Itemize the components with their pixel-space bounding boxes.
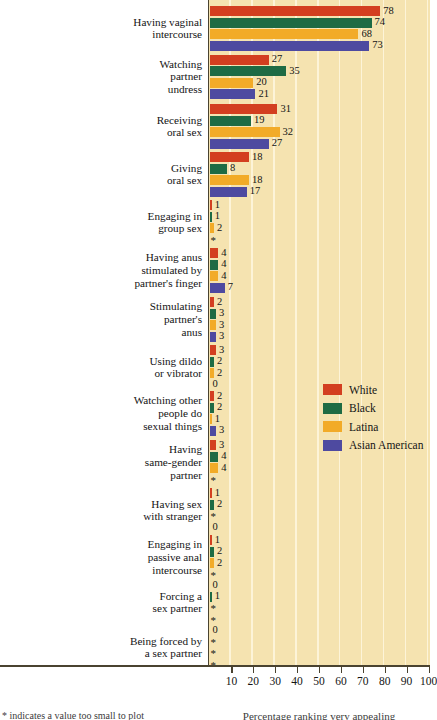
bar-value-label: 2 xyxy=(217,497,222,510)
bar-asian-american xyxy=(210,187,247,197)
category-label-line: with stranger xyxy=(52,510,202,523)
category-label-line: anus xyxy=(52,326,202,339)
category-label-line: Watching xyxy=(52,58,202,71)
category-label: Givingoral sex xyxy=(52,162,202,187)
category-row: Forcing asex partner01** xyxy=(0,580,430,625)
bar-latina xyxy=(210,463,219,473)
bar-white xyxy=(210,440,217,450)
bar-value-label: 4 xyxy=(221,269,226,282)
category-label-line: Having sex xyxy=(52,498,202,511)
bar-value-label: 17 xyxy=(250,184,261,197)
category-row: Givingoral sex1881817 xyxy=(0,152,430,197)
category-row: Stimulatingpartner'sanus2333 xyxy=(0,297,430,342)
legend-item: Asian American xyxy=(323,437,428,455)
legend-label: Asian American xyxy=(349,439,423,451)
legend-swatch-latina xyxy=(323,421,342,432)
category-label-line: oral sex xyxy=(52,174,202,187)
bar-black xyxy=(210,452,219,462)
bar-value-label: 31 xyxy=(280,102,291,115)
category-label-line: Having anus xyxy=(52,251,202,264)
bar-black xyxy=(210,547,214,557)
bar-value-label: 68 xyxy=(361,27,372,40)
category-row: Having vaginalintercourse78746873 xyxy=(0,6,430,51)
category-label-line: Giving xyxy=(52,162,202,175)
axis-tick-90 xyxy=(407,667,408,673)
axis-tick-20 xyxy=(253,667,254,673)
axis-tick-label-90: 90 xyxy=(401,675,413,687)
category-row: Engaging inpassive analintercourse122* xyxy=(0,535,430,580)
axis-tick-label-100: 100 xyxy=(420,675,437,687)
bar-asian-american xyxy=(210,89,256,99)
axis-tick-100 xyxy=(429,667,430,673)
bar-black xyxy=(210,164,228,174)
bar-value-label: 74 xyxy=(375,15,386,28)
bar-value-label: 32 xyxy=(283,125,294,138)
axis-tick-50 xyxy=(319,667,320,673)
axis-tick-80 xyxy=(385,667,386,673)
bar-latina xyxy=(210,223,214,233)
bar-value-label: 0 xyxy=(213,623,218,636)
category-label-line: same-gender xyxy=(52,456,202,469)
axis-tick-label-30: 30 xyxy=(269,675,281,687)
bar-value-label: 7 xyxy=(228,280,233,293)
bar-latina xyxy=(210,558,214,568)
bar-black xyxy=(210,66,287,76)
legend-item: Black xyxy=(323,400,428,418)
bar-asian-american xyxy=(210,283,225,293)
legend-swatch-asian-american xyxy=(323,440,342,451)
category-label-line: partner xyxy=(52,469,202,482)
bar-latina xyxy=(210,127,280,137)
category-label-line: stimulated by xyxy=(52,264,202,277)
axis-tick-70 xyxy=(363,667,364,673)
bar-value-label: 21 xyxy=(258,87,269,100)
category-label: Forcing asex partner xyxy=(52,590,202,615)
bar-value-label: 3 xyxy=(219,423,224,436)
category-label-line: intercourse xyxy=(52,564,202,577)
bar-white xyxy=(210,104,278,114)
category-label: Stimulatingpartner'sanus xyxy=(52,300,202,338)
axis-tick-label-80: 80 xyxy=(379,675,391,687)
bar-value-label: 27 xyxy=(272,52,283,65)
category-label-line: a sex partner xyxy=(52,647,202,660)
axis-tick-60 xyxy=(341,667,342,673)
axis-tick-40 xyxy=(297,667,298,673)
bar-white xyxy=(210,55,269,65)
bar-asian-american xyxy=(210,426,217,436)
category-row: Having anusstimulated bypartner's finger… xyxy=(0,248,430,293)
bar-latina xyxy=(210,320,217,330)
bar-white xyxy=(210,345,217,355)
category-label-line: sexual things xyxy=(52,420,202,433)
category-label-line: Having xyxy=(52,443,202,456)
category-label-line: partner's finger xyxy=(52,277,202,290)
bar-value-label: 2 xyxy=(217,221,222,234)
category-label: Engaging inpassive analintercourse xyxy=(52,538,202,576)
legend-item: Latina xyxy=(323,418,428,436)
category-label-line: Having vaginal xyxy=(52,16,202,29)
axis-tick-label-70: 70 xyxy=(357,675,369,687)
bar-value-label: 19 xyxy=(254,113,265,126)
axis-tick-label-40: 40 xyxy=(291,675,303,687)
footnote: * indicates a value too small to plot xyxy=(2,710,192,720)
bar-white xyxy=(210,391,214,401)
bar-latina xyxy=(210,29,359,39)
bar-value-label: 18 xyxy=(252,150,263,163)
category-label-line: passive anal xyxy=(52,551,202,564)
axis-tick-30 xyxy=(275,667,276,673)
axis-tick-10 xyxy=(231,667,232,673)
category-row: Engaging ingroup sex112* xyxy=(0,200,430,245)
bar-asian-american xyxy=(210,332,217,342)
category-label: Having anusstimulated bypartner's finger xyxy=(52,251,202,289)
legend-label: White xyxy=(349,384,377,396)
axis-tick-label-50: 50 xyxy=(313,675,325,687)
category-label-line: Stimulating xyxy=(52,300,202,313)
bar-value-label: 27 xyxy=(272,136,283,149)
category-label-line: partner xyxy=(52,70,202,83)
bar-value-label: * xyxy=(211,234,217,247)
category-row: Watchingpartnerundress27352021 xyxy=(0,55,430,100)
category-label: Having vaginalintercourse xyxy=(52,16,202,41)
category-label: Watchingpartnerundress xyxy=(52,58,202,96)
category-label-line: Engaging in xyxy=(52,210,202,223)
bar-black xyxy=(210,212,212,222)
category-row: Being forced bya sex partner0*** xyxy=(0,625,430,670)
axis-tick-label-20: 20 xyxy=(248,675,260,687)
